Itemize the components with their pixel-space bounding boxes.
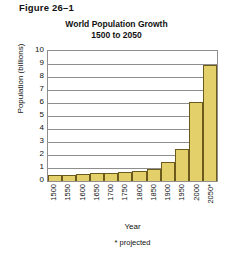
x-slot: 1550 [61,183,75,223]
footnote: * projected [47,238,218,247]
y-tick-label: 10 [35,46,44,54]
y-tick-label: 7 [40,85,44,93]
x-slot: 2050* [204,183,218,223]
bar [118,172,132,181]
x-tick-label: 1650 [93,184,101,201]
bar [90,173,104,181]
y-tick-label: 1 [40,163,44,171]
bar [147,169,161,181]
figure-label: Figure 26–1 [19,2,74,13]
bar-slot [132,51,146,181]
y-axis-tick-labels: 012345678910 [30,50,44,182]
x-tick-label: 1900 [164,184,172,201]
bar-slot [147,51,161,181]
y-tick-label: 2 [40,150,44,158]
chart-title-line1: World Population Growth [0,19,233,30]
x-tick-label: 1600 [79,184,87,201]
plot-area [47,50,218,182]
bar-slot [175,51,189,181]
bar [76,174,90,181]
bar-slot [118,51,132,181]
bar [132,171,146,181]
bar-slot [203,51,217,181]
x-tick-label: 1500 [50,184,58,201]
y-tick-label: 9 [40,59,44,67]
x-tick-label: 1750 [121,184,129,201]
x-tick-label: 1850 [150,184,158,201]
x-slot: 1650 [90,183,104,223]
x-slot: 2000 [190,183,204,223]
bar [175,149,189,182]
x-slot: 1900 [161,183,175,223]
bar [189,102,203,181]
y-tick-label: 8 [40,72,44,80]
bar-slot [161,51,175,181]
bar-slot [76,51,90,181]
bar [48,175,62,181]
y-tick-label: 6 [40,98,44,106]
bar [62,175,76,182]
bar-slot [48,51,62,181]
y-axis-title: Population (billions) [16,19,25,139]
y-tick-label: 3 [40,137,44,145]
x-axis-tick-labels: 1500155016001650170017501800185019001950… [47,183,218,223]
bar-slot [104,51,118,181]
x-tick-label: 1800 [136,184,144,201]
bar [203,65,217,181]
x-slot: 1950 [175,183,189,223]
x-tick-label: 1700 [107,184,115,201]
x-slot: 1500 [47,183,61,223]
x-tick-label: 1950 [178,184,186,201]
bar-slot [62,51,76,181]
bar-series [48,51,217,181]
x-slot: 1800 [133,183,147,223]
x-slot: 1750 [118,183,132,223]
x-tick-label: 2000 [193,184,201,201]
bar-slot [90,51,104,181]
x-axis-title: Year [47,222,218,231]
chart-title: World Population Growth 1500 to 2050 [0,19,233,40]
x-tick-label: 1550 [64,184,72,201]
y-tick-label: 4 [40,124,44,132]
chart-title-line2: 1500 to 2050 [0,30,233,41]
x-slot: 1700 [104,183,118,223]
y-tick-label: 5 [40,111,44,119]
x-slot: 1600 [76,183,90,223]
x-tick-label: 2050* [207,184,215,204]
y-tick-label: 0 [40,176,44,184]
bar-slot [189,51,203,181]
bar [161,162,175,181]
bar [104,173,118,181]
x-slot: 1850 [147,183,161,223]
